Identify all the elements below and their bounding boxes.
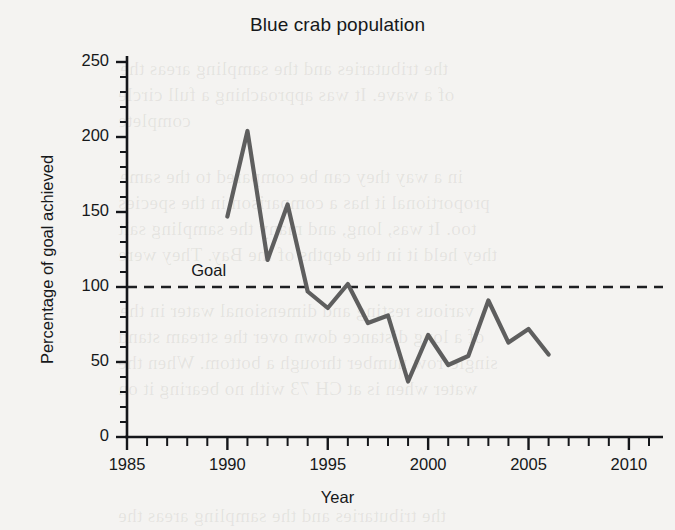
y-tick-label: 150	[47, 201, 109, 220]
x-axis-label: Year	[0, 488, 675, 507]
x-tick-label: 1985	[82, 455, 172, 474]
goal-annotation-label: Goal	[191, 261, 226, 280]
y-tick-label: 250	[47, 51, 109, 70]
y-tick-label: 0	[47, 426, 109, 445]
y-tick-label: 200	[47, 126, 109, 145]
y-tick-label: 100	[47, 276, 109, 295]
x-tick-label: 2000	[383, 455, 473, 474]
x-tick-label: 1995	[283, 455, 373, 474]
chart-page: the tributaries and the sampling areas t…	[0, 0, 675, 530]
x-tick-label: 1990	[182, 455, 272, 474]
x-tick-label: 2005	[484, 455, 574, 474]
x-tick-label: 2010	[584, 455, 674, 474]
chart-plot-area	[0, 0, 675, 530]
y-tick-label: 50	[47, 351, 109, 370]
data-series-line	[227, 131, 548, 382]
